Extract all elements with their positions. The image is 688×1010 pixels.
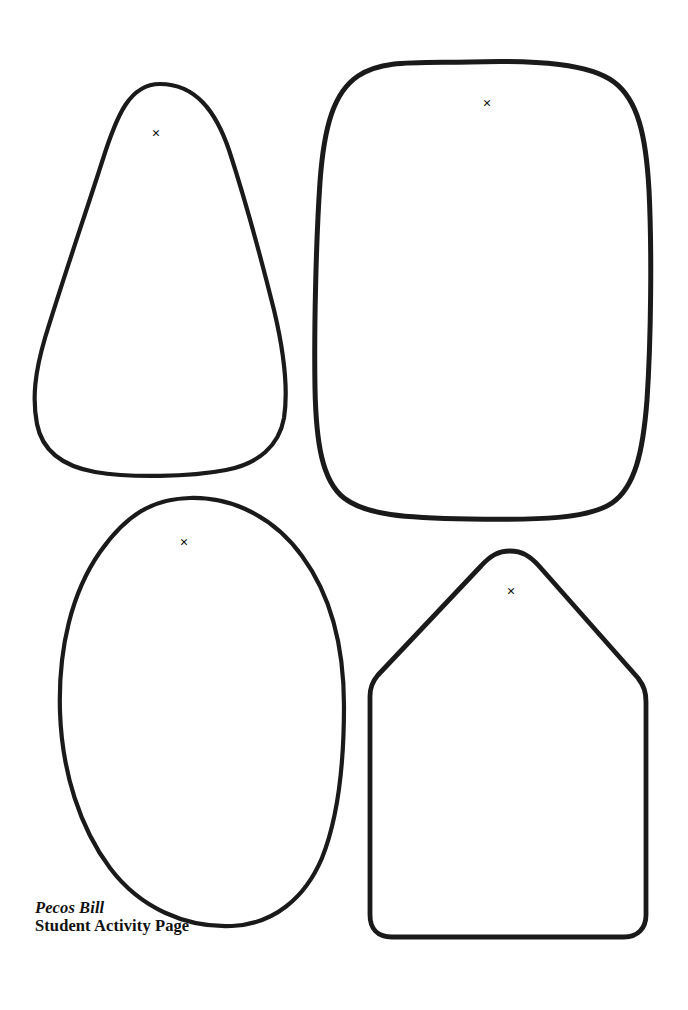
rounded-rectangle-outline	[315, 62, 651, 520]
center-mark-x-house: ×	[507, 583, 516, 599]
shape-group-squircle: ×	[315, 62, 651, 520]
caption-block: Pecos Bill Student Activity Page	[35, 899, 189, 936]
shapes-canvas: × × × ×	[0, 0, 688, 1010]
caption-subtitle: Student Activity Page	[35, 917, 189, 935]
center-mark-x-squircle: ×	[483, 95, 492, 111]
caption-title: Pecos Bill	[35, 899, 189, 917]
center-mark-x-egg: ×	[180, 534, 189, 550]
center-mark-x-teardrop: ×	[152, 125, 161, 141]
worksheet-page: × × × × Pecos Bill Student Activity Page	[0, 0, 688, 1010]
